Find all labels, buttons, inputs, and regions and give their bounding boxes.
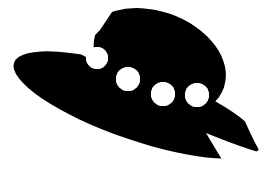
porthole-3	[151, 82, 175, 106]
porthole-2	[116, 67, 140, 91]
image-canvas: UFO Silhouette A solid black UFO shape t…	[0, 0, 275, 173]
porthole-4	[185, 83, 209, 107]
porthole-1	[86, 47, 108, 69]
flying-saucer-silhouette: UFO Silhouette A solid black UFO shape t…	[0, 0, 275, 173]
